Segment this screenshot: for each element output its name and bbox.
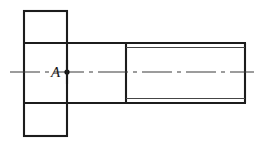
bolt-drawing-svg: A [0, 0, 263, 145]
drawing-canvas: A [0, 0, 263, 145]
bolt-head-outline [24, 11, 67, 136]
point-a-label: A [50, 64, 61, 80]
